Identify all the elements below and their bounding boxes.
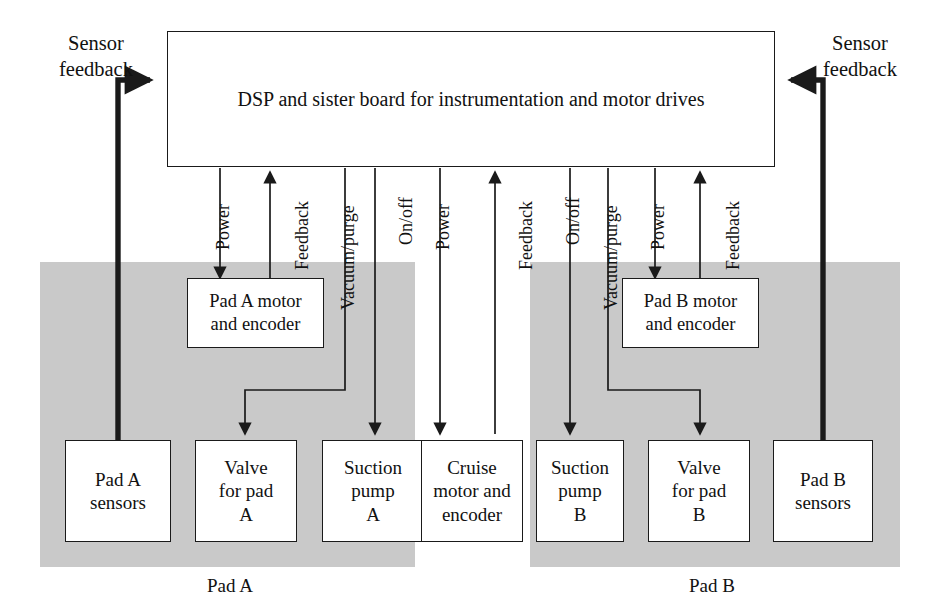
wire-label-power-a: Power [213, 204, 234, 250]
node-pad-b-sensors[interactable]: Pad B sensors [773, 440, 873, 542]
label-sensor-feedback-left-line2: feedback [36, 56, 156, 82]
node-suction-pump-a-line1: Suction [340, 456, 406, 479]
node-pad-b-sensors-line1: Pad B [791, 468, 855, 491]
wire-label-power-b: Power [648, 204, 669, 250]
node-valve-pad-b-line1: Valve [668, 456, 730, 479]
wire-label-feedback-cruise: Feedback [516, 201, 537, 270]
wire-label-onoff-a: On/off [396, 197, 417, 245]
node-pad-b-motor-line2: and encoder [640, 313, 742, 336]
node-pad-b-motor[interactable]: Pad B motor and encoder [622, 278, 759, 348]
node-cruise-motor[interactable]: Cruise motor and encoder [421, 440, 523, 542]
node-valve-pad-a-line1: Valve [215, 456, 277, 479]
node-pad-a-sensors[interactable]: Pad A sensors [65, 440, 171, 542]
node-pad-a-motor[interactable]: Pad A motor and encoder [187, 278, 324, 348]
node-pad-b-sensors-line2: sensors [791, 491, 855, 514]
label-sensor-feedback-left: Sensor feedback [36, 30, 156, 82]
wire-label-vacuum-purge-b: Vacuum/purge [601, 205, 622, 310]
label-sensor-feedback-right: Sensor feedback [800, 30, 920, 82]
wire-label-power-cruise: Power [433, 204, 454, 250]
node-valve-pad-a-line2: for pad [215, 479, 277, 502]
node-pad-a-sensors-line2: sensors [86, 491, 150, 514]
label-region-pad-b: Pad B [632, 575, 792, 597]
node-valve-pad-a[interactable]: Valve for pad A [195, 440, 297, 542]
node-cruise-motor-line1: Cruise [429, 456, 515, 479]
wire-label-vacuum-purge-a: Vacuum/purge [338, 205, 359, 310]
label-sensor-feedback-right-line2: feedback [800, 56, 920, 82]
node-valve-pad-b[interactable]: Valve for pad B [648, 440, 750, 542]
node-pad-b-motor-line1: Pad B motor [640, 290, 742, 313]
node-suction-pump-a-line2: pump [340, 479, 406, 502]
wire-label-onoff-b: On/off [563, 197, 584, 245]
node-pad-a-sensors-line1: Pad A [86, 468, 150, 491]
diagram-canvas: DSP and sister board for instrumentation… [0, 0, 937, 612]
node-suction-pump-b-line3: B [547, 503, 613, 526]
node-cruise-motor-line2: motor and [429, 479, 515, 502]
node-suction-pump-b[interactable]: Suction pump B [536, 440, 624, 542]
node-dsp-board-label: DSP and sister board for instrumentation… [234, 87, 709, 111]
label-sensor-feedback-right-line1: Sensor [800, 30, 920, 56]
node-cruise-motor-line3: encoder [429, 503, 515, 526]
label-region-pad-a: Pad A [150, 575, 310, 597]
node-pad-a-motor-line1: Pad A motor [205, 290, 306, 313]
wire-label-feedback-b: Feedback [723, 201, 744, 270]
node-suction-pump-a[interactable]: Suction pump A [322, 440, 424, 542]
node-suction-pump-b-line1: Suction [547, 456, 613, 479]
label-sensor-feedback-left-line1: Sensor [36, 30, 156, 56]
node-valve-pad-b-line2: for pad [668, 479, 730, 502]
node-pad-a-motor-line2: and encoder [205, 313, 306, 336]
node-suction-pump-a-line3: A [340, 503, 406, 526]
node-valve-pad-b-line3: B [668, 503, 730, 526]
wire-label-feedback-a: Feedback [292, 201, 313, 270]
node-suction-pump-b-line2: pump [547, 479, 613, 502]
node-dsp-board[interactable]: DSP and sister board for instrumentation… [167, 31, 775, 167]
node-valve-pad-a-line3: A [215, 503, 277, 526]
